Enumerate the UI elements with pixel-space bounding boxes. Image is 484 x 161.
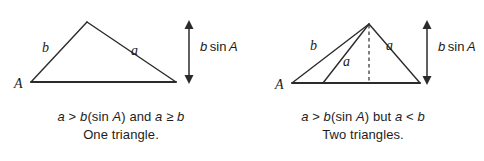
caption-part: ≥ bbox=[162, 109, 177, 124]
caption-part: A bbox=[112, 109, 121, 124]
panel-two-triangles: A b a a b sin A a > b(sin A) but a < b T… bbox=[242, 0, 484, 161]
caption-part: ) but bbox=[365, 109, 395, 124]
height-expression-label: b sin A bbox=[438, 39, 476, 54]
two-triangles-diagram: A b a a b sin A bbox=[242, 0, 484, 105]
caption-line-1: a > b(sin A) but a < b bbox=[242, 108, 484, 125]
ambiguous-case-figure: A b a b sin A a > b(sin A) and a ≥ b One… bbox=[0, 0, 484, 161]
panel-one-triangle: A b a b sin A a > b(sin A) and a ≥ b One… bbox=[0, 0, 242, 161]
caption-part: b bbox=[177, 109, 184, 124]
height-fn-sin: sin bbox=[448, 39, 465, 54]
caption-part: b bbox=[324, 109, 331, 124]
height-angle-a: A bbox=[466, 39, 476, 54]
caption-part: b bbox=[418, 109, 425, 124]
height-var-b: b bbox=[200, 39, 207, 54]
vertex-a-label: A bbox=[13, 76, 23, 91]
height-arrow bbox=[423, 20, 432, 85]
caption-line-1: a > b(sin A) and a ≥ b bbox=[0, 108, 242, 125]
caption-part: sin bbox=[335, 109, 356, 124]
height-expression-label: b sin A bbox=[200, 39, 238, 54]
caption-part: sin bbox=[92, 109, 113, 124]
side-a-label: a bbox=[131, 43, 138, 58]
side-a-inner-label: a bbox=[343, 54, 350, 69]
height-var-b: b bbox=[438, 39, 445, 54]
height-arrow bbox=[185, 20, 194, 84]
triangle-side-a-right-line bbox=[369, 24, 420, 83]
caption-part: a bbox=[58, 109, 65, 124]
side-b-label: b bbox=[42, 40, 49, 55]
caption-part: ) and bbox=[121, 109, 155, 124]
caption-part: > bbox=[308, 109, 323, 124]
side-a-right-label: a bbox=[386, 38, 393, 53]
caption-line-2: Two triangles. bbox=[242, 126, 484, 143]
height-fn-sin: sin bbox=[210, 39, 227, 54]
side-b-label: b bbox=[310, 38, 317, 53]
triangle-side-b-line bbox=[31, 22, 87, 82]
one-triangle-diagram: A b a b sin A bbox=[0, 0, 242, 105]
caption-part: < bbox=[402, 109, 417, 124]
caption-line-2: One triangle. bbox=[0, 126, 242, 143]
vertex-a-label: A bbox=[274, 77, 284, 92]
height-angle-a: A bbox=[228, 39, 238, 54]
caption-part: > bbox=[65, 109, 80, 124]
caption-part: A bbox=[356, 109, 365, 124]
